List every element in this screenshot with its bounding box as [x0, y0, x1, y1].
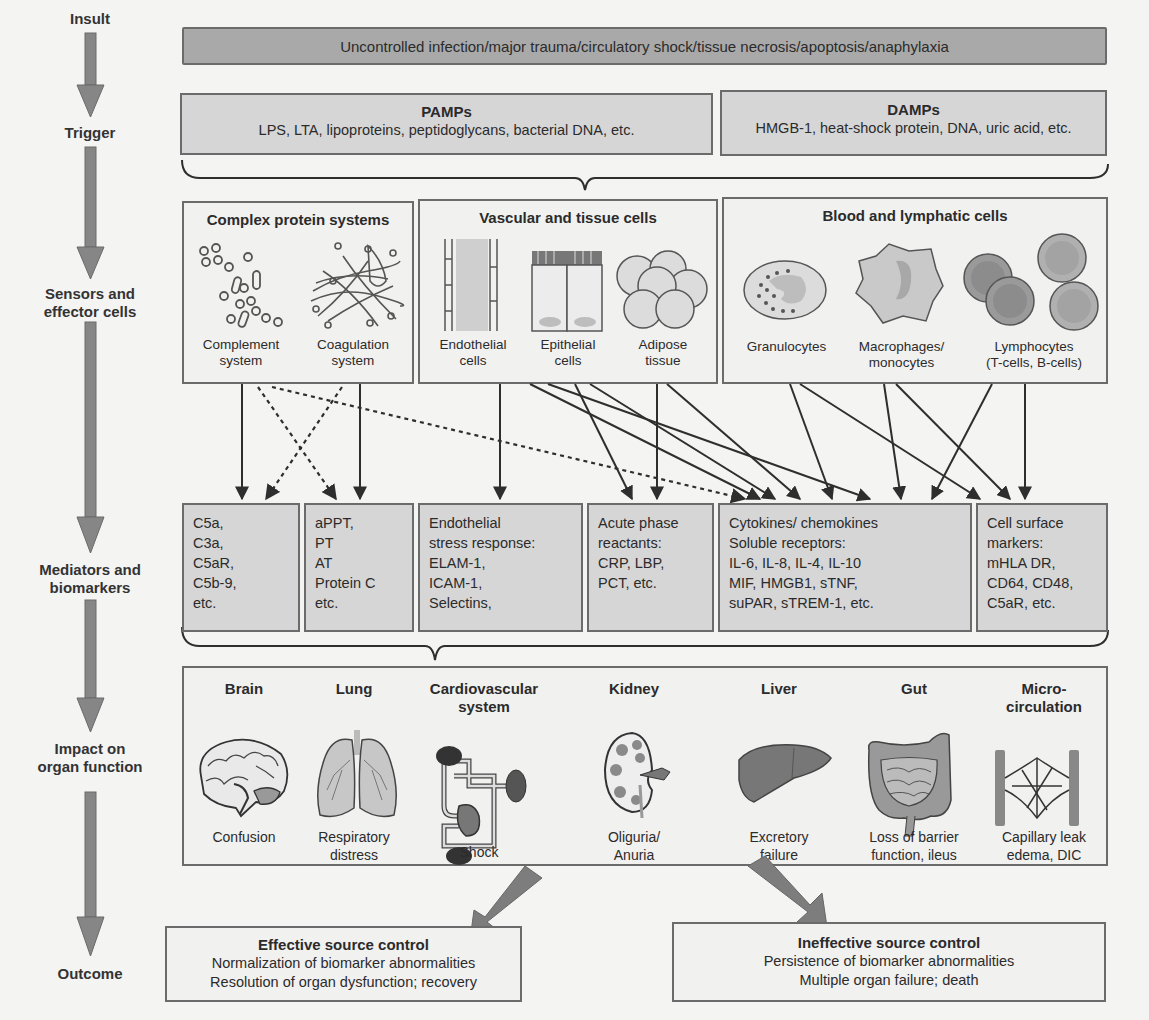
ineffective-title: Ineffective source control [674, 924, 1104, 952]
ineffective-source-control-box: Ineffective source control Persistence o… [672, 922, 1106, 1002]
ineffective-line-2: Multiple organ failure; death [674, 971, 1104, 990]
outcome-arrows [0, 0, 1149, 1020]
ineffective-line-1: Persistence of biomarker abnormalities [674, 952, 1104, 971]
effective-source-control-box: Effective source control Normalization o… [165, 926, 522, 1002]
effective-line-1: Normalization of biomarker abnormalities [167, 954, 520, 973]
arrow-ineffective-icon [748, 856, 827, 927]
effective-line-2: Resolution of organ dysfunction; recover… [167, 973, 520, 992]
effective-title: Effective source control [167, 928, 520, 954]
